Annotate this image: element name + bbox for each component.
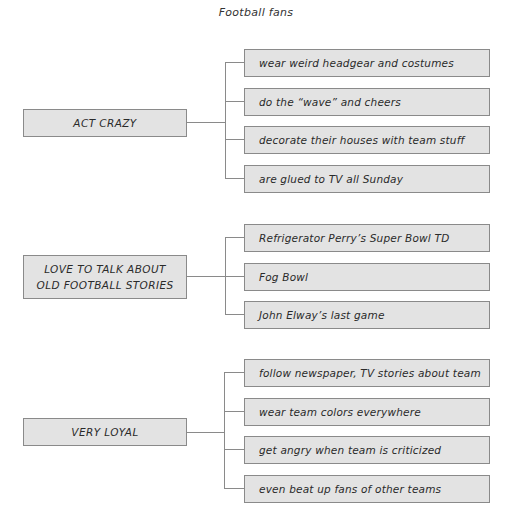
connector-line (187, 432, 225, 433)
item-label: decorate their houses with team stuff (259, 134, 465, 146)
category-label-line-1: LOVE TO TALK ABOUT (44, 261, 166, 277)
connector-line (187, 276, 225, 277)
connector-branch (225, 314, 244, 315)
item-label: wear weird headgear and costumes (259, 57, 454, 69)
category-label: VERY LOYAL (71, 424, 138, 440)
category-box: ACT CRAZY (23, 109, 187, 137)
item-label: John Elway’s last game (259, 309, 385, 321)
category-box: LOVE TO TALK ABOUT OLD FOOTBALL STORIES (23, 255, 187, 299)
connector-trunk (224, 372, 225, 489)
category-label-line-2: OLD FOOTBALL STORIES (37, 277, 174, 293)
item-box: follow newspaper, TV stories about team (244, 359, 490, 387)
item-box: do the “wave” and cheers (244, 88, 490, 116)
connector-branch (225, 276, 244, 277)
item-box: John Elway’s last game (244, 301, 490, 329)
connector-branch (225, 62, 244, 63)
item-box: wear weird headgear and costumes (244, 49, 490, 77)
item-box: decorate their houses with team stuff (244, 126, 490, 154)
connector-branch (224, 372, 244, 373)
item-box: Refrigerator Perry’s Super Bowl TD (244, 224, 490, 252)
item-label: Refrigerator Perry’s Super Bowl TD (259, 232, 449, 244)
item-label: are glued to TV all Sunday (259, 173, 403, 185)
category-label: ACT CRAZY (73, 115, 136, 131)
connector-trunk (225, 62, 226, 179)
connector-branch (225, 101, 244, 102)
item-box: are glued to TV all Sunday (244, 165, 490, 193)
item-label: follow newspaper, TV stories about team (259, 367, 481, 379)
category-box: VERY LOYAL (23, 418, 187, 446)
connector-branch (224, 449, 244, 450)
item-label: Fog Bowl (259, 271, 308, 283)
item-box: Fog Bowl (244, 263, 490, 291)
connector-branch (225, 139, 244, 140)
connector-branch (225, 237, 244, 238)
item-box: wear team colors everywhere (244, 398, 490, 426)
item-label: get angry when team is criticized (259, 444, 441, 456)
item-box: get angry when team is criticized (244, 436, 490, 464)
connector-branch (224, 488, 244, 489)
connector-branch (225, 178, 244, 179)
item-label: do the “wave” and cheers (259, 96, 401, 108)
connector-branch (224, 411, 244, 412)
item-label: wear team colors everywhere (259, 406, 421, 418)
diagram-title: Football fans (0, 6, 512, 19)
item-box: even beat up fans of other teams (244, 475, 490, 503)
item-label: even beat up fans of other teams (259, 483, 441, 495)
connector-line (187, 122, 225, 123)
